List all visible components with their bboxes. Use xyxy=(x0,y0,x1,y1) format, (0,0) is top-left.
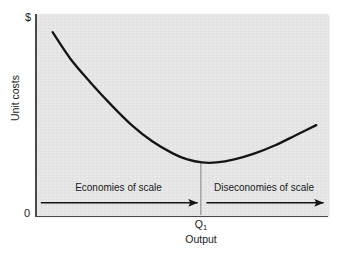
economies-of-scale-chart: $ 0 Unit costs Q1 Output Economies of sc… xyxy=(0,0,349,266)
average-cost-curve xyxy=(53,32,317,163)
chart-vector-layer xyxy=(0,0,349,266)
